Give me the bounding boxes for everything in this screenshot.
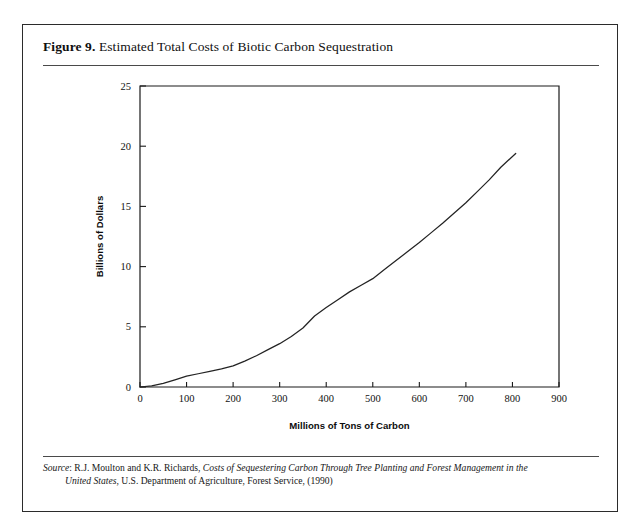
y-tick-label: 15 xyxy=(121,201,132,212)
y-axis-title: Billions of Dollars xyxy=(94,196,105,278)
y-tick-label: 20 xyxy=(121,141,132,152)
plot-frame xyxy=(140,86,559,387)
x-tick-label: 600 xyxy=(411,393,427,404)
figure-number: Figure 9. xyxy=(43,39,95,54)
x-tick-label: 200 xyxy=(225,393,241,404)
title-divider xyxy=(43,65,599,66)
y-tick-label: 0 xyxy=(126,382,131,393)
source-note: Source: R.J. Moulton and K.R. Richards, … xyxy=(43,462,599,487)
source-divider xyxy=(43,456,599,457)
x-tick-label: 800 xyxy=(505,393,521,404)
x-tick-label: 500 xyxy=(365,393,381,404)
source-work-title-line2: United States xyxy=(65,475,116,486)
y-tick-label: 25 xyxy=(121,81,132,92)
x-tick-label: 100 xyxy=(179,393,195,404)
source-publisher: , U.S. Department of Agriculture, Forest… xyxy=(116,475,332,486)
line-chart-svg: 01002003004005006007008009000510152025Mi… xyxy=(23,25,619,513)
data-series-line xyxy=(140,153,516,387)
figure-title: Figure 9. Estimated Total Costs of Bioti… xyxy=(43,39,393,55)
source-authors: : R.J. Moulton and K.R. Richards, xyxy=(69,462,203,473)
x-tick-label: 0 xyxy=(137,393,142,404)
x-tick-label: 900 xyxy=(551,393,567,404)
x-tick-label: 300 xyxy=(272,393,288,404)
chart-plot-area: 01002003004005006007008009000510152025Mi… xyxy=(23,25,619,513)
y-tick-label: 10 xyxy=(121,261,132,272)
y-tick-label: 5 xyxy=(126,321,131,332)
figure-container: Figure 9. Estimated Total Costs of Bioti… xyxy=(22,24,618,512)
figure-title-text: Estimated Total Costs of Biotic Carbon S… xyxy=(99,39,393,54)
source-label: Source xyxy=(43,462,69,473)
x-tick-label: 700 xyxy=(458,393,474,404)
x-tick-label: 400 xyxy=(318,393,334,404)
x-axis-title: Millions of Tons of Carbon xyxy=(289,420,409,431)
source-work-title-line1: Costs of Sequestering Carbon Through Tre… xyxy=(203,462,528,473)
